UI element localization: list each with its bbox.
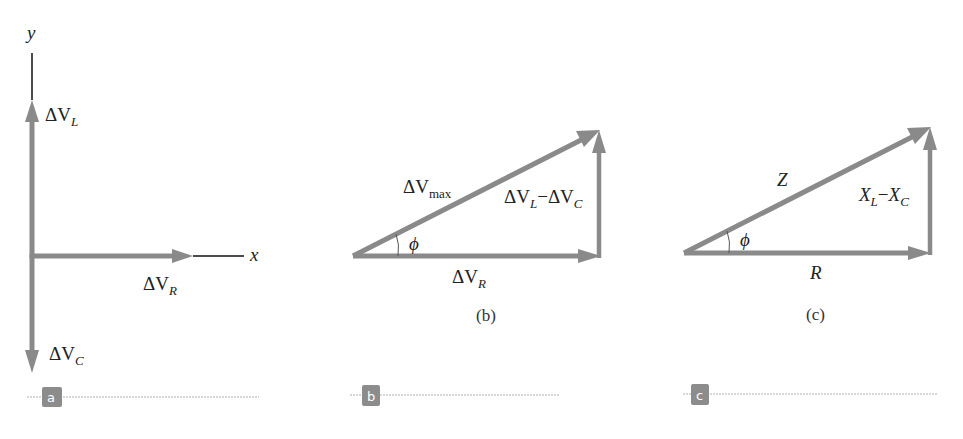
vector-vl-arrowhead (25, 100, 39, 122)
vector-vmax-label: ΔVmax (403, 176, 452, 201)
vector-vr-arrowhead (172, 249, 193, 263)
panel-c: ϕ Z XL−XC R (c) c (683, 127, 937, 405)
angle-phi-label: ϕ (409, 233, 419, 254)
vector-vl-label: ΔVL (45, 104, 78, 129)
y-axis-label: y (25, 22, 36, 43)
phasor-diagram-canvas: y ΔVL ΔVC x ΔVR a (0, 0, 963, 439)
panel-c-caption: (c) (806, 305, 825, 324)
vector-vl-vc-label: ΔVL−ΔVC (504, 186, 583, 211)
vector-xl-xc-label: XL−XC (858, 184, 909, 209)
panel-a-badge-text: a (47, 390, 55, 405)
panel-a: y ΔVL ΔVC x ΔVR a (25, 22, 259, 407)
vector-vc-label: ΔVC (49, 343, 84, 368)
panel-c-badge-text: c (696, 388, 703, 403)
panel-b-caption: (b) (476, 306, 496, 325)
panel-b-badge-text: b (367, 389, 375, 404)
vector-r-arrowhead (908, 246, 931, 260)
vector-r-label: R (809, 262, 822, 283)
angle-arc (727, 231, 730, 253)
panel-b: ϕ ΔVmax ΔVL−ΔVC ΔVR (b) b (350, 130, 606, 406)
vector-vr-label: ΔVR (143, 273, 177, 298)
vector-vr-base-label: ΔVR (452, 266, 486, 291)
x-axis-label: x (249, 244, 259, 265)
vector-vc-arrowhead (25, 350, 39, 373)
vector-z-label: Z (777, 169, 788, 190)
angle-phi-label: ϕ (740, 229, 750, 250)
angle-arc (396, 234, 399, 256)
